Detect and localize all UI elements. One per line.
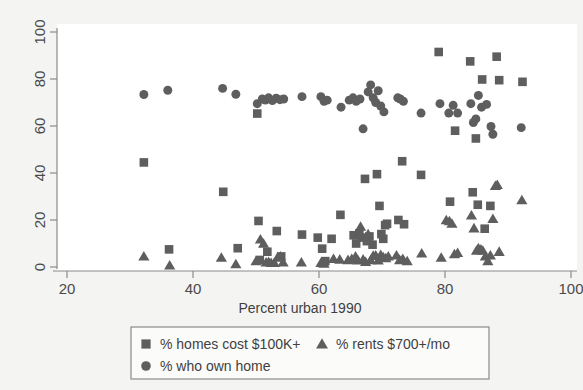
- data-point-square: [478, 75, 487, 84]
- x-axis-title: Percent urban 1990: [239, 300, 362, 316]
- data-point-circle: [323, 96, 332, 105]
- legend-entry-0[interactable]: % homes cost $100K+: [141, 336, 300, 352]
- data-point-circle: [474, 91, 483, 100]
- data-point-circle: [163, 86, 172, 95]
- x-tick-label-60: 60: [311, 280, 328, 297]
- data-point-square: [375, 202, 384, 211]
- x-axis-ticks: [67, 271, 571, 278]
- data-point-square: [434, 48, 443, 57]
- data-point-square: [272, 227, 281, 236]
- y-axis-ticks: [50, 32, 57, 267]
- data-point-circle: [488, 130, 497, 139]
- circle-marker: [141, 361, 151, 371]
- data-point-square: [398, 157, 407, 166]
- y-axis-tick-labels: 0 20 40 60 80 100: [31, 19, 48, 271]
- data-point-square: [373, 170, 382, 179]
- legend-entry-1[interactable]: % rents $700+/mo: [316, 336, 450, 352]
- data-point-circle: [482, 100, 491, 109]
- data-point-square: [253, 109, 262, 118]
- data-point-square: [472, 134, 481, 143]
- data-point-square: [486, 202, 495, 211]
- data-point-circle: [449, 101, 458, 110]
- data-point-square: [361, 175, 370, 184]
- data-point-circle: [355, 95, 364, 104]
- data-point-square: [254, 217, 263, 226]
- data-point-square: [383, 219, 392, 228]
- data-point-square: [336, 211, 345, 220]
- data-point-square: [492, 52, 501, 61]
- data-point-circle: [379, 107, 388, 116]
- data-point-circle: [139, 90, 148, 99]
- x-tick-label-40: 40: [185, 280, 202, 297]
- data-point-circle: [471, 114, 480, 123]
- data-point-square: [318, 244, 327, 253]
- x-tick-label-100: 100: [558, 280, 583, 297]
- data-point-circle: [298, 92, 307, 101]
- data-point-circle: [279, 95, 288, 104]
- x-tick-label-80: 80: [437, 280, 454, 297]
- y-tick-label-40: 40: [31, 165, 48, 182]
- data-point-square: [446, 197, 455, 206]
- data-point-square: [140, 158, 149, 167]
- y-tick-label-80: 80: [31, 71, 48, 88]
- data-point-square: [480, 224, 489, 233]
- data-point-square: [233, 244, 242, 253]
- scatter-plot-figure: 0 20 40 60 80 100 20 40 60 80 100 Percen…: [0, 0, 583, 390]
- legend-label-1: % rents $700+/mo: [336, 336, 450, 352]
- data-point-square: [327, 235, 336, 244]
- data-point-square: [219, 188, 228, 197]
- data-point-square: [417, 171, 426, 180]
- data-point-circle: [487, 122, 496, 131]
- data-point-circle: [453, 109, 462, 118]
- data-point-circle: [435, 99, 444, 108]
- legend-label-0: % homes cost $100K+: [160, 336, 300, 352]
- x-tick-label-20: 20: [59, 280, 76, 297]
- data-point-square: [368, 240, 377, 249]
- data-point-circle: [359, 124, 368, 133]
- data-point-circle: [231, 90, 240, 99]
- y-tick-label-0: 0: [31, 263, 48, 271]
- data-point-circle: [466, 99, 475, 108]
- data-point-circle: [374, 86, 383, 95]
- data-point-circle: [517, 123, 526, 132]
- data-point-square: [473, 200, 482, 209]
- legend-entry-2[interactable]: % who own home: [141, 358, 271, 374]
- data-point-square: [495, 76, 504, 85]
- y-tick-label-60: 60: [31, 118, 48, 135]
- data-point-circle: [417, 109, 426, 118]
- data-point-square: [313, 233, 322, 242]
- data-point-square: [451, 126, 460, 135]
- data-point-circle: [399, 97, 408, 106]
- scatter-plot-screenshot: 0 20 40 60 80 100 20 40 60 80 100 Percen…: [0, 0, 583, 390]
- data-point-square: [165, 245, 174, 254]
- data-point-square: [263, 247, 272, 256]
- y-tick-label-20: 20: [31, 212, 48, 229]
- data-point-square: [379, 235, 388, 244]
- data-point-square: [518, 78, 527, 87]
- square-marker: [141, 339, 150, 348]
- data-point-circle: [366, 80, 375, 89]
- data-point-square: [298, 230, 307, 239]
- data-point-circle: [337, 103, 346, 112]
- legend-label-2: % who own home: [160, 358, 271, 374]
- data-point-circle: [218, 84, 227, 93]
- y-tick-label-100: 100: [31, 19, 48, 44]
- data-point-square: [468, 188, 477, 197]
- x-axis-tick-labels: 20 40 60 80 100: [59, 280, 583, 297]
- data-point-square: [400, 220, 409, 229]
- data-point-square: [466, 57, 475, 66]
- data-point-circle: [444, 109, 453, 118]
